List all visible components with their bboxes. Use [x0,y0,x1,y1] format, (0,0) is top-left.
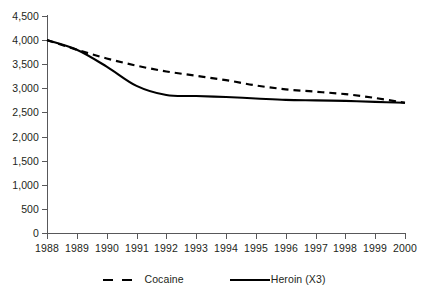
line-chart: 05001,0001,5002,0002,5003,0003,5004,0004… [0,0,428,298]
series-line-heroin [47,40,405,103]
legend-item-heroin: Heroin (X3) [230,274,326,285]
dashed-line-icon [102,274,138,285]
x-axis-tick [47,234,48,239]
x-axis-label: 1992 [149,243,183,254]
y-axis-tick [42,16,47,17]
y-axis-line [47,15,48,234]
y-axis-label: 0 [0,228,39,239]
x-axis-label: 2000 [388,243,422,254]
y-axis-label: 3,500 [0,59,39,70]
y-axis-label: 1,500 [0,156,39,167]
x-axis-label: 1989 [60,243,94,254]
x-axis-tick [137,234,138,239]
x-axis-tick [286,234,287,239]
y-axis-tick [42,88,47,89]
x-axis-label: 1995 [239,243,273,254]
y-axis-label: 500 [0,204,39,215]
x-axis-tick [166,234,167,239]
x-axis-tick [405,234,406,239]
series-line-cocaine [47,40,405,103]
x-axis-label: 1996 [269,243,303,254]
y-axis-label: 4,000 [0,35,39,46]
x-axis-label: 1999 [358,243,392,254]
x-axis-tick [77,234,78,239]
x-axis-tick [375,234,376,239]
y-axis-label: 1,000 [0,180,39,191]
y-axis-tick [42,112,47,113]
x-axis-label: 1990 [90,243,124,254]
x-axis-tick [256,234,257,239]
legend-item-cocaine: Cocaine [102,274,183,285]
y-axis-label: 2,500 [0,107,39,118]
y-axis-label: 3,000 [0,83,39,94]
legend-label-cocaine: Cocaine [144,274,183,285]
y-axis-label: 2,000 [0,132,39,143]
y-axis-tick [42,40,47,41]
x-axis-label: 1994 [209,243,243,254]
legend-label-heroin: Heroin (X3) [271,274,326,285]
y-axis-label: 4,500 [0,11,39,22]
x-axis-tick [345,234,346,239]
x-axis-label: 1993 [179,243,213,254]
x-axis-tick [107,234,108,239]
y-axis-tick [42,137,47,138]
x-axis-label: 1998 [328,243,362,254]
chart-legend: Cocaine Heroin (X3) [0,268,428,290]
x-axis-tick [316,234,317,239]
x-axis-tick [226,234,227,239]
solid-line-icon [230,274,270,285]
y-axis-tick [42,64,47,65]
y-axis-tick [42,161,47,162]
x-axis-tick [196,234,197,239]
y-axis-tick [42,185,47,186]
y-axis-tick [42,209,47,210]
x-axis-label: 1988 [30,243,64,254]
